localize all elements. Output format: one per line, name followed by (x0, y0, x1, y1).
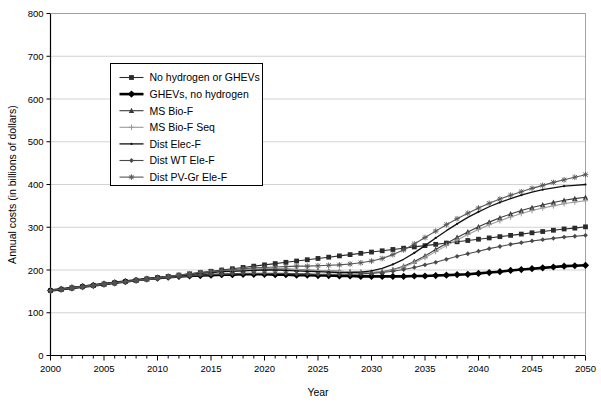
marker-square (583, 224, 588, 229)
legend-label-4: Dist Elec-F (150, 138, 201, 150)
marker-star (486, 201, 492, 207)
marker-diamond (433, 260, 438, 265)
marker-star (529, 186, 535, 192)
marker-diamond (487, 246, 492, 251)
marker-diamond (540, 237, 545, 242)
marker-star (144, 276, 150, 282)
marker-star (208, 269, 214, 275)
marker-diamond (411, 272, 418, 279)
y-axis-title: Annual costs (in billions of dollars) (6, 105, 18, 264)
marker-square (337, 253, 342, 258)
marker-square (487, 236, 492, 241)
marker-diamond (475, 270, 482, 277)
marker-dot (477, 211, 479, 213)
marker-star (454, 216, 460, 222)
x-tick-label-2040: 2040 (468, 363, 489, 374)
marker-square (540, 229, 545, 234)
x-axis-title: Year (307, 386, 329, 398)
marker-star (133, 277, 139, 283)
marker-diamond (507, 267, 514, 274)
marker-star (379, 256, 385, 262)
marker-star (315, 263, 321, 269)
marker-star (48, 288, 54, 294)
marker-diamond (583, 233, 588, 238)
marker-star (165, 274, 171, 280)
marker-diamond (528, 265, 535, 272)
marker-diamond (389, 273, 396, 280)
marker-dot (130, 143, 132, 145)
marker-square (391, 247, 396, 252)
marker-star (283, 264, 289, 270)
x-tick-label-2050: 2050 (575, 363, 596, 374)
marker-square (519, 232, 524, 237)
marker-diamond (444, 257, 449, 262)
marker-diamond (519, 240, 524, 245)
marker-star (401, 247, 407, 253)
marker-star (347, 261, 353, 267)
marker-star (112, 280, 118, 286)
marker-diamond (432, 272, 439, 279)
x-tick-label-2025: 2025 (307, 363, 328, 374)
y-tick-label-600: 600 (28, 94, 44, 105)
marker-square (305, 257, 310, 262)
marker-square (294, 259, 299, 264)
marker-star (465, 210, 471, 216)
x-tick-label-2000: 2000 (40, 363, 61, 374)
marker-star (123, 279, 129, 285)
marker-square (380, 248, 385, 253)
marker-plus (422, 255, 428, 261)
marker-star (155, 275, 161, 281)
marker-star (230, 267, 236, 273)
marker-star (561, 177, 567, 183)
marker-square (530, 230, 535, 235)
marker-star (101, 281, 107, 287)
marker-star (305, 263, 311, 269)
y-tick-label-0: 0 (38, 350, 43, 361)
y-tick-label-300: 300 (28, 222, 44, 233)
marker-star (326, 262, 332, 268)
x-tick-label-2020: 2020 (254, 363, 275, 374)
marker-diamond (518, 266, 525, 273)
legend: No hydrogen or GHEVsGHEVs, no hydrogenMS… (111, 64, 263, 186)
marker-diamond (465, 251, 470, 256)
marker-square (465, 238, 470, 243)
marker-diamond (530, 239, 535, 244)
marker-star (390, 252, 396, 258)
marker-dot (584, 183, 586, 185)
marker-star (358, 260, 364, 266)
legend-label-0: No hydrogen or GHEVs (150, 71, 260, 83)
y-tick-label-200: 200 (28, 265, 44, 276)
marker-diamond (400, 273, 407, 280)
marker-diamond (550, 263, 557, 270)
marker-star (272, 264, 278, 270)
marker-square (508, 233, 513, 238)
marker-square (369, 250, 374, 255)
marker-square (498, 234, 503, 239)
marker-dot (563, 185, 565, 187)
x-tick-label-2010: 2010 (147, 363, 168, 374)
marker-star (80, 284, 86, 290)
marker-diamond (443, 272, 450, 279)
marker-diamond (498, 244, 503, 249)
legend-label-2: MS Bio-F (150, 105, 194, 117)
marker-dot (435, 237, 437, 239)
marker-square (562, 227, 567, 232)
x-tick-label-2035: 2035 (414, 363, 435, 374)
marker-star (176, 272, 182, 278)
x-tick-label-2030: 2030 (361, 363, 382, 374)
marker-star (412, 241, 418, 247)
marker-star (444, 222, 450, 228)
marker-diamond (423, 262, 428, 267)
marker-star (572, 174, 578, 180)
x-tick-label-2045: 2045 (521, 363, 542, 374)
x-tick-label-2005: 2005 (93, 363, 114, 374)
y-tick-label-400: 400 (28, 179, 44, 190)
marker-square (326, 255, 331, 260)
marker-diamond (421, 272, 428, 279)
marker-diamond (571, 262, 578, 269)
marker-star (551, 180, 557, 186)
marker-diamond (561, 263, 568, 270)
marker-star (219, 268, 225, 274)
marker-diamond (572, 234, 577, 239)
y-tick-label-500: 500 (28, 136, 44, 147)
